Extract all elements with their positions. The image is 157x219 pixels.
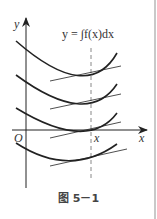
x-axis-label: x (138, 131, 145, 145)
figure: y O x x y = ∫f(x)dx 图 5－1 (0, 0, 157, 219)
integral-curve-1 (16, 41, 117, 76)
y-axis-label: y (13, 17, 20, 31)
tangent-line-4 (50, 149, 127, 166)
integral-curve-4 (16, 143, 117, 161)
tangent-line-1 (50, 66, 121, 81)
figure-caption: 图 5－1 (0, 189, 157, 205)
tangent-line-2 (50, 94, 121, 109)
origin-label: O (14, 131, 23, 145)
page-border (154, 0, 156, 219)
integral-curves-diagram: y O x x y = ∫f(x)dx (0, 0, 157, 219)
x-marker-label: x (93, 131, 100, 145)
formula-label: y = ∫f(x)dx (62, 27, 114, 41)
integral-curve-3 (16, 108, 117, 131)
integral-curve-2 (16, 75, 117, 104)
